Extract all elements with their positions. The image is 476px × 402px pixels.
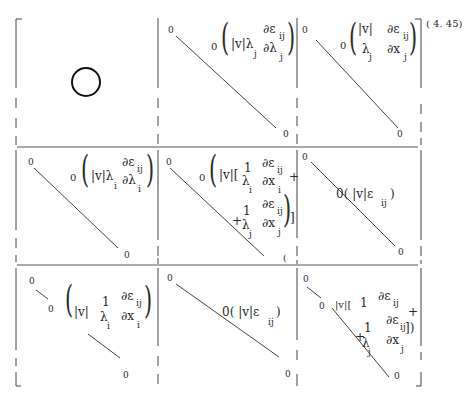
term-sub: ij bbox=[381, 199, 387, 208]
left-paren: ( bbox=[349, 18, 357, 56]
right-paren: ) bbox=[287, 18, 295, 56]
diag-end: 0 bbox=[283, 130, 289, 139]
diag-start: 0 bbox=[28, 158, 34, 167]
term-lead: |v| bbox=[74, 306, 89, 318]
frac-den-sub: i bbox=[137, 321, 140, 330]
diag-start: 0 bbox=[302, 153, 308, 162]
frac3-num: ∂ε bbox=[386, 314, 398, 326]
term-prefix: 0 bbox=[340, 41, 346, 51]
frac1-num: 1 bbox=[102, 296, 110, 308]
diag-mid: 0 bbox=[48, 305, 54, 314]
frac-num-sub: ij bbox=[137, 165, 143, 174]
frac1-den-sub: i bbox=[107, 322, 110, 331]
lead-sub: i bbox=[114, 182, 117, 191]
frac-den-sub: j bbox=[280, 53, 283, 62]
frac2-den-sub: j bbox=[249, 230, 252, 239]
term: 0( |v|ε bbox=[222, 306, 259, 318]
frac-den: ∂λ bbox=[263, 42, 277, 54]
term-lead: |v|[ bbox=[335, 300, 351, 310]
close-bracket: ]) bbox=[405, 322, 414, 334]
frac1-den-sub: j bbox=[369, 53, 372, 62]
frac-den: ∂x bbox=[262, 175, 275, 187]
term-lead: |v|λ bbox=[231, 38, 253, 50]
frac-den-sub: i bbox=[278, 186, 281, 195]
diag-start: 0 bbox=[303, 275, 309, 284]
left-paren: ( bbox=[81, 150, 89, 188]
term-sub: ij bbox=[268, 318, 274, 327]
diag-end: 0 bbox=[124, 251, 130, 260]
frac-num-sub: ij bbox=[277, 166, 283, 175]
right-paren: ) bbox=[144, 281, 152, 319]
plus-sign: + bbox=[289, 171, 299, 183]
diag-mid: 0 bbox=[319, 302, 325, 311]
diag-end: 0 bbox=[398, 248, 404, 257]
term: 0( |v|ε bbox=[336, 188, 373, 200]
frac-num: ∂ε bbox=[378, 290, 390, 302]
frac-num: ∂ε bbox=[262, 157, 274, 169]
diag-end: 0 bbox=[397, 130, 403, 139]
frac-num-sub: ij bbox=[403, 32, 409, 41]
term-lead: |v|[ bbox=[219, 169, 239, 181]
right-paren: ) bbox=[409, 18, 417, 56]
frac3-den: ∂x bbox=[262, 217, 275, 229]
frac-num: ∂ε bbox=[387, 23, 399, 35]
close-bracket: ] bbox=[290, 212, 295, 224]
diag-start: 0 bbox=[167, 274, 173, 283]
frac1-num: |v| bbox=[358, 23, 373, 35]
frac3-den-sub: j bbox=[401, 345, 404, 354]
frac1-den-sub: i bbox=[249, 186, 252, 195]
left-paren: ( bbox=[65, 280, 73, 318]
frac2-num: 1 bbox=[243, 205, 251, 217]
diag-end: 0 bbox=[394, 372, 400, 381]
frac-num-sub: ij bbox=[279, 32, 285, 41]
frac1-num: 1 bbox=[360, 297, 368, 309]
left-paren: ( bbox=[221, 18, 229, 56]
frac3-den: ∂x bbox=[386, 334, 399, 346]
plus-sign: + bbox=[408, 306, 418, 318]
frac1-num: 1 bbox=[244, 162, 252, 174]
frac3-num-sub: ij bbox=[277, 207, 283, 216]
frac-den: ∂λ bbox=[122, 174, 136, 186]
frac-num: ∂ε bbox=[121, 290, 133, 302]
term-prefix: 0 bbox=[211, 42, 217, 52]
diag-start: 0 bbox=[29, 277, 35, 286]
equation-number: ( 4. 45) bbox=[426, 19, 462, 29]
diag-end: 0 bbox=[285, 370, 291, 379]
term-close: ) bbox=[390, 188, 395, 200]
frac2-num: 1 bbox=[364, 322, 372, 334]
plus-sign: + bbox=[232, 215, 242, 227]
frac3-den-sub: j bbox=[278, 228, 281, 237]
diag-start: 0 bbox=[302, 26, 308, 35]
diag-start: 0 bbox=[166, 158, 172, 167]
diag-end: ( bbox=[283, 254, 287, 263]
lead-sub: j bbox=[254, 50, 257, 59]
frac-den: ∂x bbox=[121, 310, 134, 322]
term-lead: |v|λ bbox=[91, 170, 113, 182]
frac-num-sub: ij bbox=[393, 299, 399, 308]
frac-num-sub: ij bbox=[136, 299, 142, 308]
zero-block-circle bbox=[71, 67, 101, 97]
frac-num: ∂ε bbox=[122, 156, 134, 168]
right-paren: ) bbox=[146, 150, 154, 188]
frac3-num: ∂ε bbox=[262, 198, 274, 210]
term-prefix: 0 bbox=[70, 173, 76, 183]
frac-num: ∂ε bbox=[263, 23, 275, 35]
frac2-den-sub: j bbox=[368, 348, 371, 357]
left-paren: ( bbox=[209, 150, 217, 188]
left-bracket bbox=[16, 19, 22, 88]
frac-den-sub: j bbox=[404, 53, 407, 62]
term-prefix: 0 bbox=[199, 173, 205, 183]
frac-den: ∂x bbox=[387, 43, 400, 55]
diag-start: 0 bbox=[168, 26, 174, 35]
term-close: ) bbox=[276, 306, 281, 318]
frac-den-sub: i bbox=[138, 185, 141, 194]
diag-end: 0 bbox=[123, 371, 129, 380]
